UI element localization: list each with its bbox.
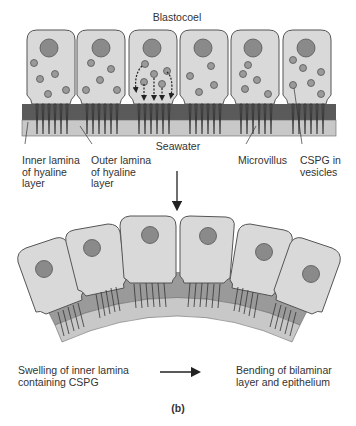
seawater-label: Seawater [150,141,206,153]
panel-label: (b) [160,403,196,415]
curved-epithelium [18,216,341,342]
effect-caption: Bending of bilaminar layer and epitheliu… [236,365,332,388]
cause-caption: Swelling of inner lamina containing CSPG [18,365,129,388]
cells-top [27,30,331,104]
cell-curved-3 [120,216,176,283]
diagram-canvas [0,0,356,426]
cspg-label: CSPG in vesicles [300,155,341,178]
outer-lamina-label: Outer lamina of hyaline layer [91,155,151,190]
flat-epithelium [22,30,336,144]
outer-lamina-band [22,120,336,136]
blastocoel-label: Blastocoel [142,12,212,24]
inner-lamina-band [22,104,336,120]
cell-curved-4 [180,216,234,283]
inner-lamina-label: Inner lamina of hyaline layer [22,155,80,190]
microvillus-label: Microvillus [238,155,287,167]
